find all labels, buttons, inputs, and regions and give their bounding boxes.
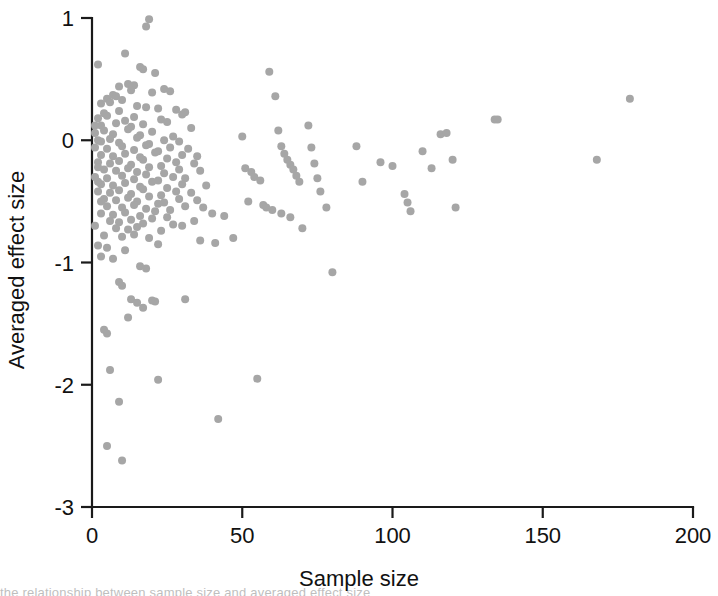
data-point: [404, 199, 412, 207]
data-point: [118, 282, 126, 290]
data-point: [166, 206, 174, 214]
partial-caption: the relationship between sample size and…: [0, 586, 718, 596]
data-point: [310, 159, 318, 167]
data-point: [136, 212, 144, 220]
y-tick-label: 1: [62, 6, 74, 31]
plot-canvas: 10-1-2-3 050100150200 Sample size Averag…: [0, 0, 718, 596]
data-point: [494, 115, 502, 123]
data-point: [121, 150, 129, 158]
data-point: [253, 375, 261, 383]
data-point: [199, 203, 207, 211]
data-point: [133, 223, 141, 231]
data-point: [208, 210, 216, 218]
data-point: [133, 168, 141, 176]
data-point: [163, 213, 171, 221]
data-point: [154, 200, 162, 208]
data-point: [124, 164, 132, 172]
data-point: [187, 124, 195, 132]
data-point: [97, 100, 105, 108]
data-point: [313, 174, 321, 182]
data-point: [91, 144, 99, 152]
data-point: [407, 207, 415, 215]
data-point: [115, 82, 123, 90]
data-point: [401, 190, 409, 198]
x-tick-label: 150: [524, 523, 561, 548]
data-point: [118, 172, 126, 180]
data-point: [103, 329, 111, 337]
data-point: [175, 195, 183, 203]
y-tick-label: -1: [54, 251, 74, 276]
data-point: [115, 107, 123, 115]
data-point: [142, 141, 150, 149]
data-point: [154, 376, 162, 384]
data-point: [166, 87, 174, 95]
data-point: [106, 366, 114, 374]
data-point: [184, 145, 192, 153]
data-point: [118, 142, 126, 150]
data-point: [145, 234, 153, 242]
scatter-plot-figure: 10-1-2-3 050100150200 Sample size Averag…: [0, 0, 718, 596]
data-point: [121, 179, 129, 187]
data-point: [142, 205, 150, 213]
data-point: [139, 185, 147, 193]
y-tick-label: -3: [54, 495, 74, 520]
y-axis: 10-1-2-3: [54, 6, 92, 520]
data-point: [139, 304, 147, 312]
data-point: [94, 60, 102, 68]
data-point: [419, 147, 427, 155]
data-point: [154, 240, 162, 248]
data-point: [358, 178, 366, 186]
data-point: [94, 163, 102, 171]
data-point: [265, 68, 273, 76]
data-point: [112, 224, 120, 232]
data-point: [175, 137, 183, 145]
data-point: [100, 126, 108, 134]
y-tick-label: 0: [62, 128, 74, 153]
data-point: [268, 206, 276, 214]
data-point: [169, 173, 177, 181]
data-point: [94, 114, 102, 122]
data-point: [298, 224, 306, 232]
y-axis-title: Averaged effect size: [4, 171, 29, 370]
data-point: [130, 113, 138, 121]
data-point: [148, 89, 156, 97]
data-point: [428, 164, 436, 172]
data-point: [142, 23, 150, 31]
data-point: [238, 133, 246, 141]
data-point: [133, 102, 141, 110]
data-point: [130, 230, 138, 238]
data-point: [160, 169, 168, 177]
data-point: [244, 197, 252, 205]
data-point: [100, 232, 108, 240]
data-point: [178, 151, 186, 159]
data-point: [328, 268, 336, 276]
x-axis: 050100150200: [86, 507, 711, 548]
data-point: [274, 126, 282, 134]
data-point: [91, 222, 99, 230]
data-point: [112, 119, 120, 127]
data-point: [443, 129, 451, 137]
data-point: [121, 117, 129, 125]
data-point: [97, 137, 105, 145]
data-point: [124, 314, 132, 322]
data-point: [94, 178, 102, 186]
data-point: [175, 166, 183, 174]
data-point: [142, 103, 150, 111]
data-point: [307, 144, 315, 152]
data-point: [304, 122, 312, 130]
data-point: [97, 252, 105, 260]
data-point: [103, 112, 111, 120]
data-point: [133, 134, 141, 142]
data-point: [115, 186, 123, 194]
data-point: [220, 212, 228, 220]
data-point: [196, 167, 204, 175]
data-point: [103, 145, 111, 153]
data-point: [106, 217, 114, 225]
data-point: [103, 174, 111, 182]
data-point: [106, 189, 114, 197]
data-point: [178, 111, 186, 119]
data-point: [112, 196, 120, 204]
data-point: [109, 255, 117, 263]
data-point: [214, 415, 222, 423]
data-point: [256, 177, 264, 185]
